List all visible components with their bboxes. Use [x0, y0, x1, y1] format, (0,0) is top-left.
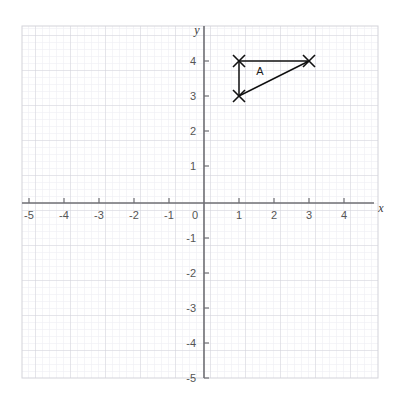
- x-tick-label-3: 3: [306, 209, 312, 221]
- y-tick-label--3: -3: [186, 302, 196, 314]
- x-tick-label--3: -3: [94, 209, 104, 221]
- x-tick-label--2: -2: [129, 209, 139, 221]
- shape-label-a: A: [256, 65, 264, 77]
- coordinate-grid-figure: -5 -4 -3 -2 -1 0 1 2 3 4 4 3 2 1 -1 -2 -…: [0, 0, 403, 403]
- x-tick-label-2: 2: [271, 209, 277, 221]
- y-tick-label-4: 4: [190, 55, 196, 67]
- y-tick-label--5: -5: [186, 372, 196, 384]
- graph-canvas: -5 -4 -3 -2 -1 0 1 2 3 4 4 3 2 1 -1 -2 -…: [0, 0, 403, 403]
- y-tick-label--1: -1: [186, 232, 196, 244]
- y-tick-label-1: 1: [190, 160, 196, 172]
- grid-background: [22, 26, 378, 378]
- x-tick-label-1: 1: [236, 209, 242, 221]
- y-axis-label: y: [193, 23, 200, 37]
- x-axis-label: x: [377, 201, 384, 215]
- y-tick-label-2: 2: [190, 125, 196, 137]
- x-tick-label--4: -4: [59, 209, 69, 221]
- x-tick-label--5: -5: [24, 209, 34, 221]
- x-tick-label-4: 4: [341, 209, 347, 221]
- x-tick-label-0: 0: [192, 209, 198, 221]
- y-tick-label--2: -2: [186, 267, 196, 279]
- y-tick-label-3: 3: [190, 90, 196, 102]
- grid-area: [22, 26, 378, 378]
- x-tick-label--1: -1: [164, 209, 174, 221]
- y-tick-label--4: -4: [186, 337, 196, 349]
